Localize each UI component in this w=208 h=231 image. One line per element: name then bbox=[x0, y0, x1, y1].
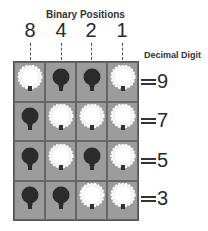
row-value-5: 5 bbox=[141, 150, 168, 170]
grid-cell bbox=[14, 181, 45, 221]
grid-cell bbox=[107, 62, 138, 102]
grid-cell bbox=[107, 181, 138, 221]
row-value-7: 7 bbox=[141, 110, 168, 130]
position-label-2: 2 bbox=[81, 19, 101, 41]
lit-bulb-icon bbox=[110, 144, 136, 178]
row-value-text: 7 bbox=[157, 109, 168, 131]
grid-cell bbox=[107, 102, 138, 142]
decimal-digit-label: Decimal Digit bbox=[144, 50, 201, 60]
position-label-8: 8 bbox=[20, 19, 40, 41]
dark-bulb-icon bbox=[79, 65, 105, 99]
grid-cell bbox=[45, 181, 76, 221]
grid-cell bbox=[14, 62, 45, 102]
row-value-text: 9 bbox=[157, 70, 168, 92]
lit-bulb-icon bbox=[48, 144, 74, 178]
lit-bulb-icon bbox=[79, 104, 105, 138]
dashed-tick bbox=[61, 43, 62, 60]
grid-cell bbox=[76, 181, 107, 221]
position-label-4: 4 bbox=[51, 19, 71, 41]
grid-cell bbox=[45, 141, 76, 181]
position-label-1: 1 bbox=[112, 19, 132, 41]
dark-bulb-icon bbox=[79, 144, 105, 178]
grid-cell bbox=[76, 102, 107, 142]
grid-cell bbox=[76, 141, 107, 181]
dashed-tick bbox=[30, 43, 31, 60]
lit-bulb-icon bbox=[110, 104, 136, 138]
dark-bulb-icon bbox=[17, 104, 43, 138]
dark-bulb-icon bbox=[48, 65, 74, 99]
grid-cell bbox=[45, 102, 76, 142]
grid-cell bbox=[14, 141, 45, 181]
lit-bulb-icon bbox=[79, 183, 105, 217]
dashed-tick bbox=[91, 43, 92, 60]
row-value-3: 3 bbox=[141, 188, 168, 208]
row-value-text: 3 bbox=[157, 187, 168, 209]
dashed-tick bbox=[122, 43, 123, 60]
lit-bulb-icon bbox=[17, 65, 43, 99]
lit-bulb-icon bbox=[110, 65, 136, 99]
dark-bulb-icon bbox=[17, 183, 43, 217]
grid-cell bbox=[45, 62, 76, 102]
row-value-9: 9 bbox=[141, 71, 168, 91]
lit-bulb-icon bbox=[110, 183, 136, 217]
grid-cell bbox=[107, 141, 138, 181]
row-value-text: 5 bbox=[157, 149, 168, 171]
dark-bulb-icon bbox=[17, 144, 43, 178]
dark-bulb-icon bbox=[48, 183, 74, 217]
grid-cell bbox=[14, 102, 45, 142]
bulb-grid bbox=[13, 61, 139, 221]
grid-cell bbox=[76, 62, 107, 102]
lit-bulb-icon bbox=[48, 104, 74, 138]
